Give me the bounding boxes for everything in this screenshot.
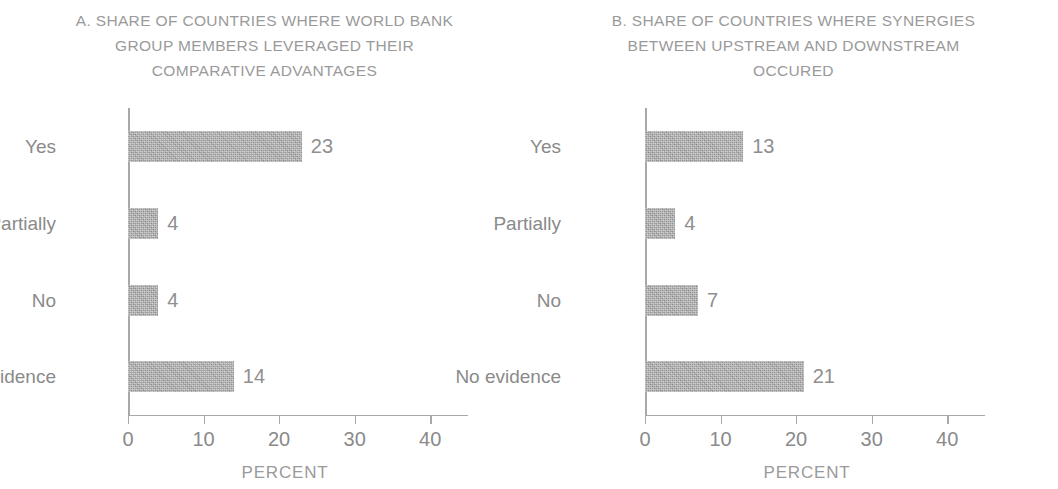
x-tick-label: 20 bbox=[268, 428, 290, 451]
category-label: No bbox=[0, 284, 56, 315]
x-tick-mark bbox=[796, 415, 797, 424]
category-label: No evidence bbox=[311, 360, 561, 391]
x-tick-mark bbox=[872, 415, 873, 424]
x-tick-label: 40 bbox=[936, 428, 958, 451]
bar bbox=[128, 285, 158, 316]
panel-b-x-axis bbox=[645, 415, 985, 416]
x-tick-label: 20 bbox=[785, 428, 807, 451]
figure-container: A. SHARE OF COUNTRIES WHERE WORLD BANK G… bbox=[0, 0, 1058, 489]
x-tick-label: 0 bbox=[122, 428, 133, 451]
bar-row: No7 bbox=[645, 262, 985, 339]
chart-panel-a: A. SHARE OF COUNTRIES WHERE WORLD BANK G… bbox=[0, 0, 529, 489]
category-label: Yes bbox=[0, 130, 56, 161]
category-label: Yes bbox=[311, 130, 561, 161]
panel-b-x-axis-title: PERCENT bbox=[637, 463, 977, 483]
x-tick-mark bbox=[355, 415, 356, 424]
bar-value-label: 4 bbox=[158, 207, 178, 238]
chart-panel-b: B. SHARE OF COUNTRIES WHERE SYNERGIES BE… bbox=[529, 0, 1058, 489]
category-label: No bbox=[311, 284, 561, 315]
x-tick-label: 30 bbox=[344, 428, 366, 451]
bar-row: Yes13 bbox=[645, 108, 985, 185]
category-label: Partially bbox=[311, 207, 561, 238]
panel-b-title: B. SHARE OF COUNTRIES WHERE SYNERGIES BE… bbox=[529, 8, 1058, 83]
x-tick-mark bbox=[947, 415, 948, 424]
bar bbox=[645, 208, 675, 239]
x-tick-label: 10 bbox=[192, 428, 214, 451]
bar bbox=[645, 285, 698, 316]
bar-value-label: 14 bbox=[234, 360, 265, 391]
panel-a-x-axis bbox=[128, 415, 468, 416]
bar-row: Partially4 bbox=[645, 185, 985, 262]
category-label-wrap: Partially bbox=[645, 185, 985, 262]
bar bbox=[128, 208, 158, 239]
x-tick-label: 10 bbox=[709, 428, 731, 451]
bar-value-label: 4 bbox=[158, 284, 178, 315]
x-tick-mark bbox=[430, 415, 431, 424]
x-tick-mark bbox=[279, 415, 280, 424]
x-tick-label: 0 bbox=[639, 428, 650, 451]
bar-row: No evidence21 bbox=[645, 338, 985, 415]
bar bbox=[128, 361, 234, 392]
bar-value-label: 7 bbox=[698, 284, 718, 315]
x-tick-mark bbox=[721, 415, 722, 424]
bar bbox=[645, 361, 804, 392]
bar-value-label: 21 bbox=[804, 360, 835, 391]
x-tick-mark bbox=[204, 415, 205, 424]
panel-a-x-axis-title: PERCENT bbox=[115, 463, 455, 483]
category-label: Partially bbox=[0, 207, 56, 238]
panel-a-title: A. SHARE OF COUNTRIES WHERE WORLD BANK G… bbox=[0, 8, 529, 83]
bar-value-label: 13 bbox=[743, 130, 774, 161]
x-tick-mark bbox=[645, 415, 646, 424]
x-tick-label: 30 bbox=[861, 428, 883, 451]
panel-b-plot-area: Yes13Partially4No7No evidence21 01020304… bbox=[645, 108, 985, 415]
bar bbox=[128, 131, 302, 162]
category-label: No evidence bbox=[0, 360, 56, 391]
x-tick-label: 40 bbox=[419, 428, 441, 451]
bar bbox=[645, 131, 743, 162]
x-tick-mark bbox=[128, 415, 129, 424]
bar-value-label: 4 bbox=[675, 207, 695, 238]
